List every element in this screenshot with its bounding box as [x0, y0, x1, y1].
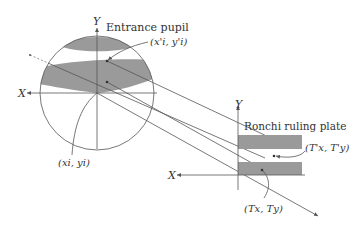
pupil-point-prime-label: (x'i, y'i)	[150, 36, 187, 47]
plate-point-label: (Tx, Ty)	[244, 203, 283, 214]
band-shade	[38, 59, 155, 93]
ruling-stripe-upper	[238, 135, 302, 149]
top-cap-shade	[60, 37, 135, 51]
ruling-stripe-lower	[238, 162, 302, 175]
ronchi-test-diagram: Y X Y X Entrance pupil Ronchi ruling pla…	[0, 0, 360, 233]
plate-y-label: Y	[235, 98, 244, 111]
plate-point-prime-label: (T'x, T'y)	[305, 142, 349, 153]
entrance-pupil-label: Entrance pupil	[106, 21, 189, 34]
ronchi-plate	[238, 135, 302, 175]
entrance-pupil-sphere	[38, 36, 155, 155]
pupil-y-label: Y	[93, 15, 102, 28]
incoming-dashed-line	[30, 55, 48, 63]
pupil-point-label: (xi, yi)	[58, 157, 90, 168]
pupil-x-label: X	[17, 87, 27, 100]
plate-x-label: X	[167, 169, 177, 182]
ronchi-label: Ronchi ruling plate	[244, 120, 346, 132]
